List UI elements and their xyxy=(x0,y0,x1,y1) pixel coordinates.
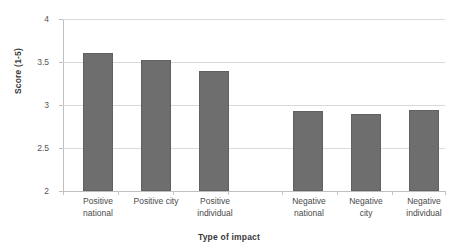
category-label-line1: Positive xyxy=(83,196,113,206)
category-label-positive-city: Positive city xyxy=(121,196,191,208)
x-tick-mark-4 xyxy=(282,191,283,195)
category-label-negative-individual: Negative individual xyxy=(391,196,457,219)
category-label-positive-individual: Positive individual xyxy=(183,196,247,219)
y-tick-label-3-5: 3.5 xyxy=(0,58,56,67)
category-label-line2: national xyxy=(68,208,128,220)
gridline-2-baseline xyxy=(63,191,445,192)
category-label-line2: individual xyxy=(391,208,457,220)
bar-negative-national[interactable] xyxy=(293,111,323,191)
x-axis-title: Type of impact xyxy=(0,232,458,242)
y-tick-label-4: 4 xyxy=(0,15,56,24)
category-label-line1: Positive city xyxy=(134,196,179,206)
bar-positive-national[interactable] xyxy=(83,53,113,191)
category-label-line2: national xyxy=(278,208,340,220)
x-tick-mark-5 xyxy=(337,191,338,195)
y-tick-label-2-5: 2.5 xyxy=(0,144,56,153)
category-label-positive-national: Positive national xyxy=(68,196,128,219)
category-label-negative-national: Negative national xyxy=(278,196,340,219)
category-label-line2: individual xyxy=(183,208,247,220)
bars-layer xyxy=(63,19,445,191)
bar-negative-individual[interactable] xyxy=(409,110,439,191)
x-tick-mark-0 xyxy=(63,191,64,195)
x-tick-mark-3 xyxy=(228,191,229,195)
category-label-line1: Negative xyxy=(349,196,383,206)
category-label-line1: Negative xyxy=(407,196,441,206)
bar-positive-city[interactable] xyxy=(141,60,171,191)
category-label-line1: Positive xyxy=(200,196,230,206)
x-tick-mark-6 xyxy=(392,191,393,195)
x-tick-mark-7 xyxy=(445,191,446,195)
y-tick-label-3: 3 xyxy=(0,101,56,110)
category-label-negative-city: Negative city xyxy=(335,196,397,219)
x-tick-mark-1 xyxy=(118,191,119,195)
x-axis-category-labels: Positive national Positive city Positive… xyxy=(63,196,445,230)
y-axis-tick-labels: 4 3.5 3 2.5 2 xyxy=(0,0,56,246)
category-label-line2: city xyxy=(335,208,397,220)
category-label-line1: Negative xyxy=(292,196,326,206)
y-tick-label-2: 2 xyxy=(0,187,56,196)
x-tick-mark-2 xyxy=(173,191,174,195)
bar-chart: Score (1-5) 4 3.5 3 2.5 2 xyxy=(0,0,458,246)
bar-negative-city[interactable] xyxy=(351,114,381,191)
bar-positive-individual[interactable] xyxy=(199,71,229,191)
